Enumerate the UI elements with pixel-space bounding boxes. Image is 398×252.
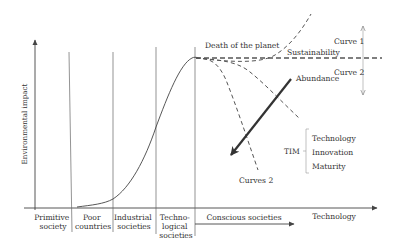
sustainability-label: Sustainability xyxy=(287,48,341,57)
curves2-line xyxy=(196,58,258,170)
era-label-poor: Poor countries xyxy=(75,213,111,231)
y-axis-label: Environmental impact xyxy=(20,83,29,164)
conscious-societies-label: Conscious societies xyxy=(206,213,281,222)
divider-primitive-poor xyxy=(69,52,72,232)
tim-label: TIM xyxy=(284,147,300,156)
x-axis-label: Technology xyxy=(312,212,356,221)
death-of-planet-label: Death of the planet xyxy=(205,41,279,50)
era-label-primitive: Primitive society xyxy=(34,213,71,231)
tim-item-innovation: Innovation xyxy=(312,148,353,157)
growth-curve xyxy=(77,57,198,207)
curve1-label: Curve 1 xyxy=(334,37,364,46)
curves2-label: Curves 2 xyxy=(239,176,273,185)
environmental-impact-diagram: Environmental impact Technology Primitiv… xyxy=(0,0,398,252)
era-label-technological: Techno- logical societies xyxy=(159,213,193,240)
curve2-label: Curve 2 xyxy=(334,68,365,77)
abundance-label: Abundance xyxy=(295,74,340,83)
tim-bracket xyxy=(303,129,309,173)
tim-item-maturity: Maturity xyxy=(312,162,346,171)
tim-item-technology: Technology xyxy=(312,134,356,143)
era-label-industrial: Industrial societies xyxy=(114,213,154,231)
